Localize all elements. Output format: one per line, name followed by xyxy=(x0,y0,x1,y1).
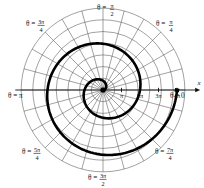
grid-spoke xyxy=(82,11,103,90)
angle-label-numerator: π xyxy=(169,18,173,25)
angle-label-text: θ = xyxy=(155,148,164,156)
angle-label-theta-5pi-4: θ =5π4 xyxy=(22,146,41,161)
angle-label-denominator: 4 xyxy=(39,26,42,33)
angle-label-numerator: 5π xyxy=(34,146,41,153)
grid-spoke xyxy=(24,90,103,111)
grid-spoke xyxy=(45,32,103,90)
polar-pole-marker xyxy=(100,87,105,92)
polar-plot-figure: x π2π3π4π θ = 0θ =π4θ =π2θ =3π4θ = πθ =5… xyxy=(0,0,204,188)
angle-label-numerator: 7π xyxy=(167,146,174,153)
grid-spoke xyxy=(32,90,103,131)
grid-spoke xyxy=(45,90,103,148)
angle-label-denominator: 2 xyxy=(110,10,113,17)
angle-label-text: θ = xyxy=(88,174,97,182)
angle-label-text: θ = xyxy=(156,20,165,28)
angle-label-numerator: π xyxy=(110,2,114,9)
angle-label-text: θ = xyxy=(22,148,31,156)
angle-label-text: θ = xyxy=(97,4,106,12)
grid-spoke xyxy=(103,90,124,169)
angle-label-theta-7pi-4: θ =7π4 xyxy=(155,146,174,161)
angle-label-theta-0: θ = 0 xyxy=(170,92,185,100)
angle-label-theta-pi: θ = π xyxy=(8,92,23,100)
radial-tick-label: 2π xyxy=(137,92,144,99)
angle-label-numerator: 3π xyxy=(38,18,45,25)
angle-label-denominator: 2 xyxy=(101,180,104,187)
angle-label-text: θ = 0 xyxy=(170,92,185,100)
angle-label-denominator: 4 xyxy=(168,154,171,161)
radial-tick-label: 3π xyxy=(155,92,162,99)
x-axis-name: x xyxy=(197,79,202,87)
grid-spoke xyxy=(24,69,103,90)
angle-label-theta-pi-4: θ =π4 xyxy=(156,18,173,33)
grid-spoke xyxy=(103,19,144,90)
angle-label-text: θ = xyxy=(26,20,35,28)
angle-label-theta-3pi-4: θ =3π4 xyxy=(26,18,45,33)
angle-label-theta-pi-2: θ =π2 xyxy=(97,2,114,17)
angle-label-theta-3pi-2: θ =3π2 xyxy=(88,172,107,187)
x-axis-arrowhead xyxy=(195,88,200,93)
grid-spoke xyxy=(103,69,182,90)
angle-label-denominator: 4 xyxy=(169,26,172,33)
angle-label-numerator: 3π xyxy=(100,172,107,179)
radial-tick-label: π xyxy=(120,92,124,99)
angle-label-denominator: 4 xyxy=(35,154,38,161)
angle-label-text: θ = π xyxy=(8,92,23,100)
polar-plot-canvas: x π2π3π4π θ = 0θ =π4θ =π2θ =3π4θ = πθ =5… xyxy=(0,0,204,188)
